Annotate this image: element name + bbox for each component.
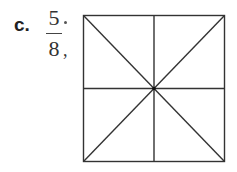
center-point [152,87,156,91]
divided-square-figure [0,0,237,172]
